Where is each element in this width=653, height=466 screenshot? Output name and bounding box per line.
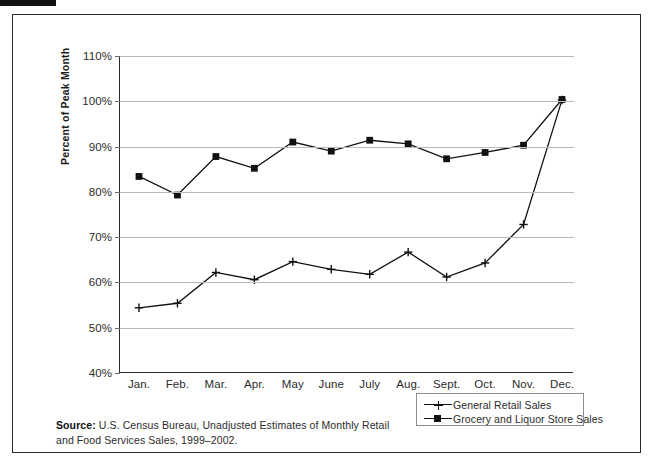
- scan-artifact-bar: [0, 0, 56, 6]
- x-axis-tick-label: Jan.: [128, 378, 150, 390]
- square-marker-icon: [423, 413, 453, 425]
- x-axis-tick-label: Nov.: [512, 378, 535, 390]
- gridline: [120, 101, 574, 102]
- source-note: Source: U.S. Census Bureau, Unadjusted E…: [56, 418, 406, 448]
- gridline: [120, 328, 574, 329]
- line-chart: Percent of Peak Month 110%100%90%80%70%6…: [13, 15, 642, 454]
- series-layer: [120, 56, 574, 373]
- data-point-plus: [366, 270, 374, 278]
- y-axis-tick-label: 60%: [89, 276, 112, 288]
- source-text: U.S. Census Bureau, Unadjusted Estimates…: [56, 419, 389, 446]
- gridline: [120, 56, 574, 57]
- x-axis-tick-label: July: [359, 378, 380, 390]
- data-point-plus: [442, 273, 450, 281]
- data-point-plus: [327, 265, 335, 273]
- legend-label-grocery-liquor-store-sales: Grocery and Liquor Store Sales: [453, 413, 603, 425]
- chart-legend: General Retail Sales Grocery and Liquor …: [416, 393, 584, 426]
- data-point-plus: [404, 248, 412, 256]
- gridline: [120, 282, 574, 283]
- y-axis-title: Percent of Peak Month: [59, 48, 71, 165]
- x-axis-tick-label: June: [319, 378, 344, 390]
- x-axis-tick-label: Sept.: [433, 378, 460, 390]
- y-axis-tick: [115, 56, 120, 57]
- data-point-plus: [135, 304, 143, 312]
- legend-item-grocery-liquor-store-sales[interactable]: Grocery and Liquor Store Sales: [423, 412, 577, 425]
- y-axis-tick: [115, 237, 120, 238]
- y-axis-tick: [115, 147, 120, 148]
- data-point-square: [289, 139, 296, 146]
- plus-marker-icon: [423, 399, 453, 411]
- legend-item-general-retail-sales[interactable]: General Retail Sales: [423, 398, 577, 411]
- legend-label-general-retail-sales: General Retail Sales: [453, 399, 551, 411]
- y-axis-tick: [115, 328, 120, 329]
- x-axis-tick-label: Mar.: [205, 378, 228, 390]
- data-point-square: [136, 173, 143, 180]
- y-axis-tick-label: 40%: [89, 367, 112, 379]
- x-axis-tick-label: Dec.: [550, 378, 574, 390]
- x-axis-tick-label: Aug.: [396, 378, 420, 390]
- data-point-square: [520, 142, 527, 149]
- x-axis-tick-label: May: [282, 378, 304, 390]
- gridline: [120, 192, 574, 193]
- y-axis-tick-label: 70%: [89, 231, 112, 243]
- gridline: [120, 237, 574, 238]
- y-axis-tick: [115, 192, 120, 193]
- data-point-square: [366, 137, 373, 144]
- series-line: [139, 100, 562, 308]
- y-axis-tick-label: 80%: [89, 186, 112, 198]
- y-axis-tick-label: 110%: [83, 50, 112, 62]
- x-axis-tick-label: Feb.: [166, 378, 189, 390]
- x-axis-tick-label: Oct.: [474, 378, 496, 390]
- gridline: [120, 147, 574, 148]
- data-point-square: [251, 165, 258, 172]
- data-point-square: [328, 148, 335, 155]
- y-axis-tick: [115, 282, 120, 283]
- y-axis-tick-label: 100%: [82, 95, 112, 107]
- x-axis-tick-label: Apr.: [244, 378, 265, 390]
- y-axis-tick: [115, 373, 120, 374]
- figure-frame: Percent of Peak Month 110%100%90%80%70%6…: [12, 14, 641, 453]
- data-point-square: [443, 155, 450, 162]
- source-label: Source:: [56, 419, 96, 431]
- y-axis-tick-label: 90%: [89, 141, 112, 153]
- y-axis-tick: [115, 101, 120, 102]
- data-point-square: [482, 149, 489, 156]
- plot-area: 110%100%90%80%70%60%50%40%Jan.Feb.Mar.Ap…: [119, 56, 573, 373]
- y-axis-tick-label: 50%: [89, 322, 112, 334]
- data-point-plus: [289, 257, 297, 265]
- data-point-square: [213, 153, 220, 160]
